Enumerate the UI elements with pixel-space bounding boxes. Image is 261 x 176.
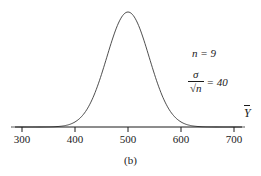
x-axis-ticks	[22, 127, 234, 132]
sqrt-n-symbol: √n	[188, 82, 204, 94]
sigma-symbol: σ	[191, 69, 200, 81]
annotation-standard-error: σ √n = 40	[188, 69, 228, 94]
variable-letter: Y	[244, 106, 251, 120]
annotation-sample-size: n = 9	[192, 47, 216, 59]
x-tick-label-500: 500	[108, 133, 148, 145]
x-tick-label-300: 300	[2, 133, 42, 145]
x-tick-label-700: 700	[214, 133, 254, 145]
standard-error-value: = 40	[207, 76, 228, 88]
x-tick-label-600: 600	[161, 133, 201, 145]
figure-panel-b: 300 400 500 600 700 n = 9 σ √n = 40 Y (b…	[0, 0, 261, 176]
x-tick-label-400: 400	[55, 133, 95, 145]
overline-bar	[244, 105, 250, 106]
y-bar-axis-variable-label: Y	[244, 106, 251, 121]
standard-error-fraction: σ √n	[188, 69, 204, 94]
overline-wrapper: Y	[244, 106, 251, 121]
figure-caption: (b)	[0, 154, 261, 166]
